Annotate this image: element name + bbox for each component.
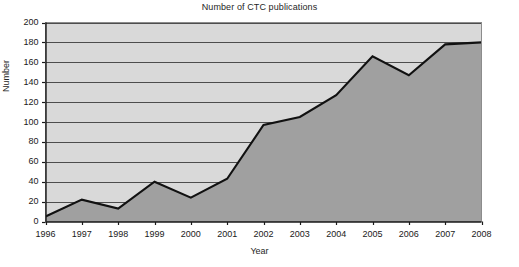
y-tick-label: 160 bbox=[13, 58, 39, 67]
chart-container: Number of CTC publications Number Year 0… bbox=[0, 0, 519, 267]
y-tick-label: 60 bbox=[13, 157, 39, 166]
x-tick-label: 2008 bbox=[462, 230, 502, 239]
x-tick-label: 2000 bbox=[171, 230, 211, 239]
plot-area bbox=[0, 0, 519, 267]
x-tick-label: 2003 bbox=[280, 230, 320, 239]
x-tick-label: 2001 bbox=[207, 230, 247, 239]
y-tick-label: 0 bbox=[13, 217, 39, 226]
x-tick-label: 2002 bbox=[244, 230, 284, 239]
x-tick-label: 1998 bbox=[98, 230, 138, 239]
y-tick-label: 180 bbox=[13, 38, 39, 47]
x-tick-label: 1996 bbox=[26, 230, 66, 239]
y-tick-label: 100 bbox=[13, 118, 39, 127]
y-tick-label: 200 bbox=[13, 18, 39, 27]
y-tick-label: 80 bbox=[13, 137, 39, 146]
x-tick-label: 2005 bbox=[353, 230, 393, 239]
x-tick-label: 2007 bbox=[425, 230, 465, 239]
x-tick-label: 1999 bbox=[135, 230, 175, 239]
x-tick-label: 2004 bbox=[316, 230, 356, 239]
y-tick-label: 20 bbox=[13, 197, 39, 206]
y-tick-label: 40 bbox=[13, 177, 39, 186]
y-tick-label: 140 bbox=[13, 78, 39, 87]
x-tick-label: 2006 bbox=[389, 230, 429, 239]
y-tick-label: 120 bbox=[13, 98, 39, 107]
x-tick-label: 1997 bbox=[62, 230, 102, 239]
